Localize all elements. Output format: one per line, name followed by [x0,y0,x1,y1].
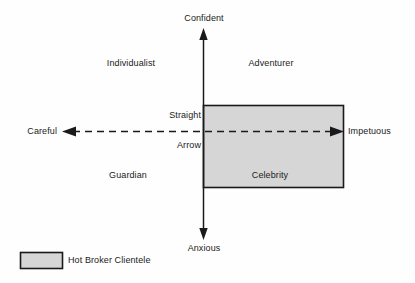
legend-swatch [21,253,63,269]
quadrant-label-celebrity: Celebrity [252,170,288,181]
diagram-canvas: Confident Anxious Careful Impetuous Stra… [0,0,415,283]
quadrant-label-guardian: Guardian [109,170,147,181]
axis-label-impetuous: Impetuous [348,126,391,137]
center-label-straight: Straight [169,110,201,121]
quadrant-label-adventurer: Adventurer [248,58,293,69]
axis-arrowhead-down-icon [199,228,207,240]
axis-label-confident: Confident [184,13,223,24]
axis-arrowhead-left-icon [62,127,76,137]
axis-label-careful: Careful [27,126,57,137]
axis-arrowhead-up-icon [199,28,207,40]
center-label-arrow: Arrow [177,140,201,151]
axis-label-anxious: Anxious [188,243,221,254]
quadrant-diagram-graphic [0,0,415,283]
quadrant-label-individualist: Individualist [107,58,155,69]
legend-entry-label: Hot Broker Clientele [68,255,151,266]
